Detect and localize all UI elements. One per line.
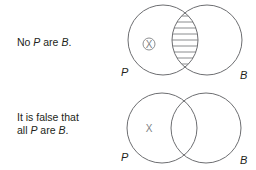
label-p: P xyxy=(121,151,129,163)
svg-text:X: X xyxy=(146,39,153,50)
venn-diagram-1: X P B xyxy=(121,5,247,81)
circled-x-mark: X xyxy=(143,38,155,50)
venn-diagram-2: X P B xyxy=(121,93,247,166)
circle-b xyxy=(171,93,241,163)
intersection-hatch xyxy=(165,10,205,70)
circle-p xyxy=(127,93,197,163)
venn-diagrams: X P B X P B xyxy=(0,0,256,170)
x-mark: X xyxy=(146,123,153,134)
label-b: B xyxy=(240,154,247,166)
label-p: P xyxy=(121,66,129,78)
label-b: B xyxy=(240,69,247,81)
